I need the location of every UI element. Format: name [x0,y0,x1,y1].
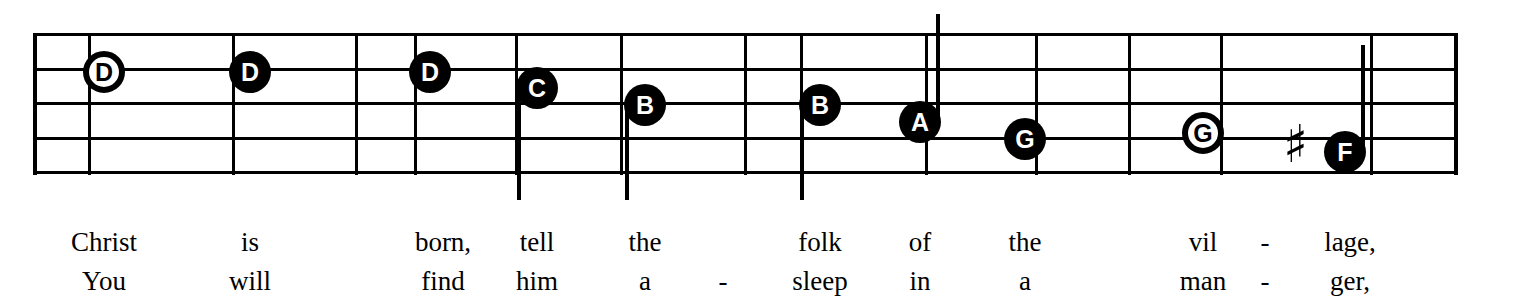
notehead-g-8[interactable]: G [1182,112,1224,154]
lyric-verse2-1: will [229,268,271,295]
lyric-verse1-2: born, [415,229,471,256]
lyric-verse2-7: in [909,268,930,295]
lyric-verse1-1: is [241,229,259,256]
barline-12 [1220,33,1223,175]
notehead-f-9[interactable]: F [1324,131,1366,173]
lyric-verse2-11: ger, [1330,268,1370,295]
note-stem-up-a-6 [936,14,940,122]
lyric-verse1-10: - [1261,229,1270,256]
lyric-verse1-11: lage, [1324,229,1376,256]
lyric-verse2-8: a [1019,268,1031,295]
notehead-a-6[interactable]: A [899,101,941,143]
note-stem-down-c-3 [517,88,521,200]
lyrics-block: ChristYouiswillborn,findtellhimthea-folk… [0,215,1535,306]
lyric-verse2-6: sleep [792,268,847,295]
barline-11 [1128,33,1131,175]
lyric-verse2-3: him [516,268,558,295]
notehead-b-4[interactable]: B [624,84,666,126]
notehead-d-0[interactable]: D [83,51,125,93]
lyric-verse1-0: Christ [71,229,137,256]
staff-right-edge [1454,33,1458,175]
barline-2 [232,33,235,175]
lyric-verse1-3: tell [520,229,555,256]
lyric-verse1-9: vil [1189,229,1218,256]
notehead-d-1[interactable]: D [229,51,271,93]
barline-7 [744,33,747,175]
barline-6 [620,33,623,175]
sharp-sign-0[interactable]: ♯ [1283,118,1308,170]
notehead-g-7[interactable]: G [1004,118,1046,160]
lyric-verse1-8: the [1009,229,1042,256]
lyric-verse1-6: folk [798,229,842,256]
lyric-verse2-5: - [719,268,728,295]
barline-3 [355,33,358,175]
lyric-verse2-4: a [639,268,651,295]
music-sheet: DDDCBBAGGF♯ ChristYouiswillborn,findtell… [0,0,1535,306]
lyric-verse1-7: of [909,229,932,256]
lyric-verse2-9: man [1180,268,1227,295]
notehead-c-3[interactable]: C [516,67,558,109]
notehead-d-2[interactable]: D [409,51,451,93]
staff-system: DDDCBBAGGF♯ [0,0,1535,215]
barline-13 [1370,33,1373,175]
lyric-verse1-4: the [629,229,662,256]
note-stem-down-b-5 [800,105,804,200]
lyric-verse2-2: find [421,268,465,295]
staff-left-edge [33,33,37,175]
lyric-verse2-0: You [82,268,126,295]
notehead-b-5[interactable]: B [799,84,841,126]
note-stem-up-f-9 [1361,45,1365,152]
lyric-verse2-10: - [1261,268,1270,295]
note-stem-down-b-4 [625,105,629,200]
